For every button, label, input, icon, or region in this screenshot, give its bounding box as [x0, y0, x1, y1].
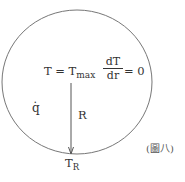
t-equals-text: T = T [44, 64, 76, 78]
t-base: T [65, 156, 73, 170]
heat-generation-label: q̇ [32, 102, 40, 114]
r-subscript: R [73, 162, 79, 172]
derivative-fraction: dT dr [103, 56, 123, 81]
surface-temperature-label: TR [65, 158, 79, 172]
diagram-canvas [0, 0, 185, 182]
derivative-denominator: dr [103, 69, 123, 81]
sphere-outline [2, 10, 152, 154]
radius-label: R [78, 110, 87, 122]
derivative-numerator: dT [103, 56, 123, 69]
figure-label: (圖八) [146, 144, 174, 154]
max-subscript: max [76, 70, 95, 80]
derivative-equals-zero: = 0 [124, 66, 145, 78]
center-temperature-label: T = Tmax [44, 66, 95, 80]
